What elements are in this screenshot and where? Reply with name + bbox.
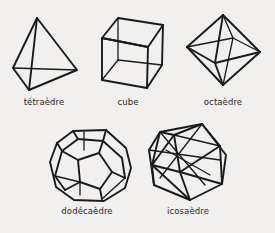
label-icosahedron: icosaèdre: [167, 206, 209, 216]
tetrahedron-figure: [13, 18, 77, 90]
label-dodecahedron: dodécaèdre: [61, 206, 112, 216]
octahedron-figure: [187, 15, 260, 85]
dodecahedron-figure: [50, 130, 131, 201]
platonic-solids-diagram: [0, 0, 275, 233]
label-octahedron: octaèdre: [204, 97, 242, 107]
label-cube: cube: [117, 97, 138, 107]
cube-figure: [102, 18, 163, 88]
icosahedron-figure: [149, 124, 226, 200]
label-tetrahedron: tétraèdre: [24, 97, 65, 107]
